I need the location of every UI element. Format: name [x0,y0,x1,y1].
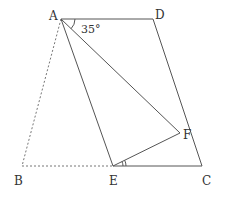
segment-AF [61,19,180,133]
segment-AB-dashed [22,19,61,166]
segment-DC [153,19,202,166]
label-A: A [48,9,58,23]
segment-AE [61,19,113,166]
label-D: D [155,8,165,22]
angle-arc-E-outer [125,160,126,166]
geometry-diagram: A D F B E C 35° [0,0,228,200]
label-F: F [183,128,191,142]
label-C: C [202,174,211,188]
segment-EF [113,133,180,166]
label-B: B [14,174,23,188]
angle-arc-A [71,19,75,29]
angle-label-A: 35° [81,23,101,36]
label-E: E [109,174,118,188]
angle-arc-E-inner [122,162,123,166]
